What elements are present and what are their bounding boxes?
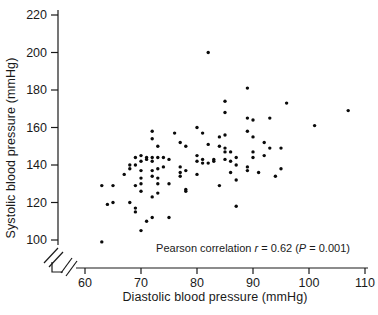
x-axis-label: Diastolic blood pressure (mmHg) <box>122 290 307 304</box>
data-point <box>251 118 254 121</box>
annotation-prefix: Pearson correlation <box>156 242 254 254</box>
data-point <box>151 216 154 219</box>
data-point <box>184 145 187 148</box>
chart-canvas: 100120140160180200220 60708090100110 Sys… <box>0 0 378 315</box>
y-tick-label: 100 <box>26 233 47 247</box>
y-tick-label: 200 <box>26 46 47 60</box>
data-point <box>263 141 266 144</box>
data-point <box>229 150 232 153</box>
data-point <box>151 195 154 198</box>
data-point <box>184 169 187 172</box>
y-tick-label: 180 <box>26 83 47 97</box>
data-point <box>347 109 350 112</box>
data-point <box>195 173 198 176</box>
data-point <box>156 156 159 159</box>
data-point <box>100 184 103 187</box>
data-point <box>235 178 238 181</box>
data-point <box>218 145 221 148</box>
data-point <box>223 111 226 114</box>
data-point <box>173 131 176 134</box>
data-point <box>134 206 137 209</box>
data-point <box>207 161 210 164</box>
data-point <box>235 163 238 166</box>
y-tick-label: 140 <box>26 158 47 172</box>
data-point <box>285 101 288 104</box>
data-point <box>218 135 221 138</box>
y-axis: 100120140160180200220 <box>26 8 63 267</box>
y-axis-ticks: 100120140160180200220 <box>26 8 58 247</box>
data-point <box>229 171 232 174</box>
data-point <box>128 167 131 170</box>
data-point <box>223 146 226 149</box>
data-point <box>167 216 170 219</box>
data-point <box>218 184 221 187</box>
data-point <box>156 182 159 185</box>
data-point <box>139 154 142 157</box>
data-point <box>201 158 204 161</box>
data-point <box>156 176 159 179</box>
data-point <box>134 210 137 213</box>
data-point <box>134 184 137 187</box>
data-point <box>151 156 154 159</box>
data-point <box>195 160 198 163</box>
y-axis-break-mark <box>44 248 58 263</box>
data-point <box>279 167 282 170</box>
data-point <box>123 173 126 176</box>
data-point <box>246 169 249 172</box>
data-point <box>151 137 154 140</box>
data-point <box>223 158 226 161</box>
data-point <box>207 143 210 146</box>
data-point <box>179 171 182 174</box>
data-point <box>111 201 114 204</box>
correlation-annotation: Pearson correlation r = 0.62 (P = 0.001) <box>156 242 350 254</box>
data-point <box>223 133 226 136</box>
x-axis-ticks: 60708090100110 <box>78 268 375 290</box>
data-point <box>235 205 238 208</box>
data-point <box>156 191 159 194</box>
annotation-r-value: = 0.62 ( <box>258 242 299 254</box>
y-axis-label: Systolic blood pressure (mmHg) <box>4 58 18 239</box>
data-point <box>151 160 154 163</box>
data-point <box>195 154 198 157</box>
data-point <box>235 156 238 159</box>
data-point <box>128 163 131 166</box>
y-tick-label: 220 <box>26 8 47 22</box>
data-point <box>246 116 249 119</box>
data-point <box>167 182 170 185</box>
data-point <box>246 130 249 133</box>
data-point <box>179 175 182 178</box>
data-point <box>279 146 282 149</box>
data-point <box>139 182 142 185</box>
data-point <box>251 135 254 138</box>
y-axis-break-mark <box>49 252 63 267</box>
data-point <box>139 229 142 232</box>
data-point <box>257 171 260 174</box>
data-point <box>212 160 215 163</box>
data-point <box>156 145 159 148</box>
data-point <box>128 201 131 204</box>
y-tick-label: 160 <box>26 121 47 135</box>
data-point <box>274 175 277 178</box>
x-tick-label: 110 <box>355 276 375 290</box>
data-point <box>156 167 159 170</box>
data-points <box>100 51 350 244</box>
data-point <box>184 190 187 193</box>
data-point <box>251 150 254 153</box>
data-point <box>201 161 204 164</box>
x-tick-label: 80 <box>190 276 204 290</box>
data-point <box>100 240 103 243</box>
data-point <box>134 163 137 166</box>
data-point <box>268 146 271 149</box>
data-point <box>195 126 198 129</box>
data-point <box>151 175 154 178</box>
data-point <box>263 154 266 157</box>
x-tick-label: 100 <box>299 276 320 290</box>
data-point <box>179 141 182 144</box>
x-tick-label: 70 <box>134 276 148 290</box>
x-axis: 60708090100110 <box>52 258 375 290</box>
y-tick-label: 120 <box>26 196 47 210</box>
data-point <box>268 116 271 119</box>
data-point <box>162 156 165 159</box>
data-point <box>201 131 204 134</box>
data-point <box>229 160 232 163</box>
